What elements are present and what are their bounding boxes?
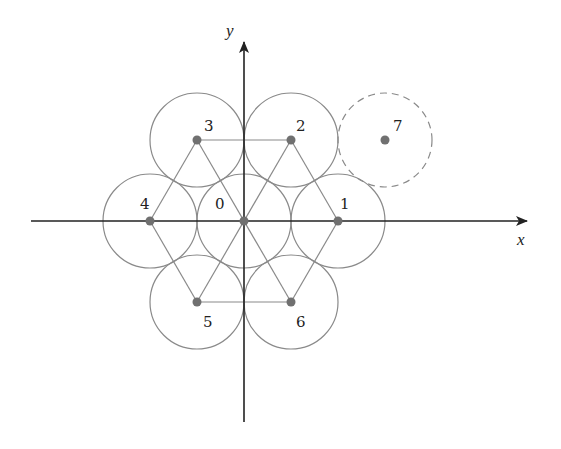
point-3 bbox=[193, 136, 202, 145]
point-label-6: 6 bbox=[296, 313, 306, 331]
edge-3-4 bbox=[150, 140, 197, 221]
point-1 bbox=[334, 217, 343, 226]
point-6 bbox=[287, 298, 296, 307]
hexagonal-packing-diagram: x y 01234567 bbox=[0, 0, 561, 449]
point-label-3: 3 bbox=[204, 117, 214, 135]
point-labels-layer: 01234567 bbox=[140, 117, 403, 331]
point-label-7: 7 bbox=[393, 117, 403, 135]
point-2 bbox=[287, 136, 296, 145]
point-label-5: 5 bbox=[203, 313, 213, 331]
point-label-1: 1 bbox=[340, 195, 350, 213]
axes-layer: x y bbox=[31, 21, 527, 422]
point-label-4: 4 bbox=[140, 195, 150, 213]
point-7 bbox=[381, 136, 390, 145]
point-5 bbox=[193, 298, 202, 307]
x-axis-label: x bbox=[516, 230, 525, 249]
point-label-2: 2 bbox=[296, 117, 306, 135]
point-0 bbox=[240, 217, 249, 226]
edge-2-1 bbox=[291, 140, 338, 221]
edge-4-5 bbox=[150, 221, 197, 302]
y-axis-label: y bbox=[224, 21, 234, 40]
point-label-0: 0 bbox=[215, 195, 225, 213]
point-4 bbox=[146, 217, 155, 226]
edge-1-6 bbox=[291, 221, 338, 302]
